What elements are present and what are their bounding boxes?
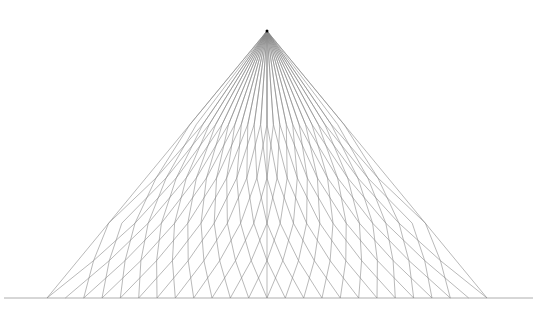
apex-point bbox=[266, 30, 269, 33]
zigzag-line bbox=[230, 31, 267, 298]
zigzag-line bbox=[188, 31, 267, 298]
pyramid-line-drawing bbox=[0, 0, 536, 326]
zigzag-line bbox=[267, 31, 450, 298]
zigzag-line bbox=[249, 31, 267, 298]
zigzag-line bbox=[267, 31, 346, 298]
zigzag-line bbox=[267, 31, 299, 298]
zigzag-line bbox=[120, 31, 267, 298]
zigzag-line bbox=[220, 31, 267, 298]
zigzag-line bbox=[267, 31, 414, 298]
zigzag-line bbox=[236, 31, 268, 298]
zigzag-line bbox=[267, 31, 314, 298]
zigzag-line bbox=[267, 31, 432, 298]
zigzag-line bbox=[139, 31, 267, 298]
zigzag-line bbox=[251, 31, 267, 298]
zigzag-line bbox=[267, 31, 283, 298]
zigzag-line bbox=[84, 31, 267, 298]
zigzag-line bbox=[102, 31, 267, 298]
zigzag-line bbox=[267, 31, 395, 298]
